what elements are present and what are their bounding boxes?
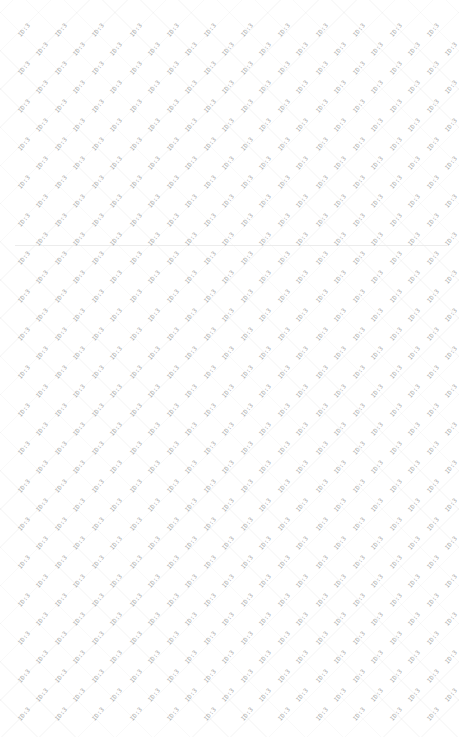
watermark-label: ID:3 xyxy=(184,79,198,95)
watermark-label: ID:3 xyxy=(258,79,272,95)
watermark-label: ID:3 xyxy=(352,478,366,494)
watermark-label: ID:3 xyxy=(72,687,86,703)
watermark-label: ID:3 xyxy=(166,250,180,266)
watermark-label: ID:3 xyxy=(240,592,254,608)
watermark-label: ID:3 xyxy=(166,98,180,114)
watermark-label: ID:3 xyxy=(72,573,86,589)
watermark-label: ID:3 xyxy=(146,687,160,703)
watermark-label: ID:3 xyxy=(35,117,49,133)
watermark-label: ID:3 xyxy=(203,60,217,76)
watermark-label: ID:3 xyxy=(128,364,142,380)
watermark-label: ID:3 xyxy=(221,459,235,475)
watermark-label: ID:3 xyxy=(221,649,235,665)
watermark-label: ID:3 xyxy=(17,22,31,38)
watermark-label: ID:3 xyxy=(128,288,142,304)
watermark-label: ID:3 xyxy=(184,41,198,57)
watermark-label: ID:3 xyxy=(370,79,384,95)
watermark-label: ID:3 xyxy=(184,649,198,665)
watermark-label: ID:3 xyxy=(332,155,346,171)
watermark-label: ID:3 xyxy=(128,98,142,114)
watermark-label: ID:3 xyxy=(295,497,309,513)
watermark-label: ID:3 xyxy=(314,98,328,114)
watermark-label: ID:3 xyxy=(109,687,123,703)
watermark-label: ID:3 xyxy=(332,193,346,209)
watermark-label: ID:3 xyxy=(128,250,142,266)
watermark-label: ID:3 xyxy=(35,497,49,513)
watermark-label: ID:3 xyxy=(203,174,217,190)
watermark-label: ID:3 xyxy=(35,459,49,475)
watermark-label: ID:3 xyxy=(389,60,403,76)
watermark-label: ID:3 xyxy=(426,212,440,228)
watermark-label: ID:3 xyxy=(72,307,86,323)
watermark-label: ID:3 xyxy=(184,535,198,551)
watermark-label: ID:3 xyxy=(258,649,272,665)
watermark-label: ID:3 xyxy=(444,687,458,703)
watermark-label: ID:3 xyxy=(240,22,254,38)
watermark-label: ID:3 xyxy=(17,440,31,456)
watermark-label: ID:3 xyxy=(407,687,421,703)
watermark-label: ID:3 xyxy=(72,611,86,627)
watermark-label: ID:3 xyxy=(184,421,198,437)
watermark-label: ID:3 xyxy=(166,592,180,608)
watermark-label: ID:3 xyxy=(184,307,198,323)
watermark-label: ID:3 xyxy=(407,497,421,513)
watermark-label: ID:3 xyxy=(277,22,291,38)
watermark-label: ID:3 xyxy=(314,250,328,266)
watermark-label: ID:3 xyxy=(221,155,235,171)
watermark-label: ID:3 xyxy=(35,79,49,95)
watermark-label: ID:3 xyxy=(370,383,384,399)
watermark-label: ID:3 xyxy=(332,687,346,703)
watermark-label: ID:3 xyxy=(314,212,328,228)
watermark-label: ID:3 xyxy=(35,687,49,703)
watermark-label: ID:3 xyxy=(332,611,346,627)
watermark-label: ID:3 xyxy=(332,421,346,437)
watermark-label: ID:3 xyxy=(109,497,123,513)
watermark-label: ID:3 xyxy=(352,136,366,152)
watermark-label: ID:3 xyxy=(203,516,217,532)
watermark-label: ID:3 xyxy=(389,212,403,228)
watermark-label: ID:3 xyxy=(146,155,160,171)
watermark-label: ID:3 xyxy=(221,421,235,437)
watermark-label: ID:3 xyxy=(332,535,346,551)
watermark-label: ID:3 xyxy=(295,79,309,95)
watermark-label: ID:3 xyxy=(332,41,346,57)
watermark-label: ID:3 xyxy=(258,155,272,171)
watermark-label: ID:3 xyxy=(128,478,142,494)
watermark-label: ID:3 xyxy=(54,592,68,608)
watermark-label: ID:3 xyxy=(295,345,309,361)
watermark-label: ID:3 xyxy=(407,421,421,437)
watermark-label: ID:3 xyxy=(17,174,31,190)
watermark-label: ID:3 xyxy=(352,22,366,38)
watermark-label: ID:3 xyxy=(109,573,123,589)
watermark-label: ID:3 xyxy=(72,649,86,665)
watermark-label: ID:3 xyxy=(166,326,180,342)
watermark-label: ID:3 xyxy=(258,687,272,703)
watermark-label: ID:3 xyxy=(444,649,458,665)
watermark-label: ID:3 xyxy=(426,288,440,304)
watermark-label: ID:3 xyxy=(352,440,366,456)
watermark-label: ID:3 xyxy=(35,383,49,399)
watermark-label: ID:3 xyxy=(295,611,309,627)
watermark-label: ID:3 xyxy=(91,174,105,190)
watermark-label: ID:3 xyxy=(240,668,254,684)
watermark-label: ID:3 xyxy=(54,250,68,266)
watermark-label: ID:3 xyxy=(109,155,123,171)
watermark-label: ID:3 xyxy=(370,687,384,703)
watermark-label: ID:3 xyxy=(314,60,328,76)
watermark-label: ID:3 xyxy=(184,269,198,285)
watermark-label: ID:3 xyxy=(146,79,160,95)
watermark-label: ID:3 xyxy=(35,649,49,665)
watermark-label: ID:3 xyxy=(407,649,421,665)
watermark-label: ID:3 xyxy=(332,497,346,513)
watermark-label: ID:3 xyxy=(426,136,440,152)
watermark-label: ID:3 xyxy=(91,668,105,684)
watermark-label: ID:3 xyxy=(295,307,309,323)
watermark-label: ID:3 xyxy=(184,155,198,171)
watermark-label: ID:3 xyxy=(277,364,291,380)
watermark-label: ID:3 xyxy=(17,212,31,228)
watermark-label: ID:3 xyxy=(54,136,68,152)
watermark-label: ID:3 xyxy=(166,554,180,570)
watermark-label: ID:3 xyxy=(146,459,160,475)
watermark-label: ID:3 xyxy=(444,231,458,247)
watermark-label: ID:3 xyxy=(166,402,180,418)
